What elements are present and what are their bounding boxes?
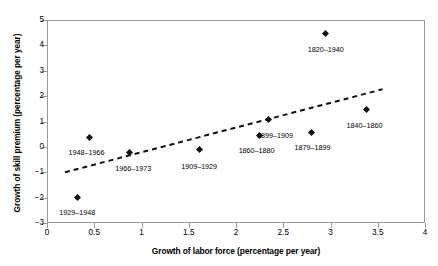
x-tick-label: 3.5 <box>358 229 398 237</box>
y-tick-label: 2 <box>16 92 44 100</box>
x-tick-label: 3 <box>311 229 351 237</box>
scatter-chart: Growth of skill premium (percentage per … <box>0 0 438 266</box>
y-tick-label: 0 <box>16 143 44 151</box>
x-tick-label: 4 <box>405 229 438 237</box>
x-tick-label: 1 <box>122 229 162 237</box>
data-point-label: 1929–1948 <box>32 209 122 216</box>
data-point-label: 1820–1940 <box>281 46 371 53</box>
x-tick-label: 2 <box>216 229 256 237</box>
y-tick-label: −2 <box>16 194 44 202</box>
x-tick-label: 0 <box>27 229 67 237</box>
y-tick-label: 1 <box>16 118 44 126</box>
y-tick-label: −3 <box>16 219 44 227</box>
x-tick-label: 0.5 <box>74 229 114 237</box>
x-axis-title: Growth of labor force (percentage per ye… <box>47 246 425 256</box>
data-point-label: 1840–1860 <box>319 122 409 129</box>
y-tick-label: 4 <box>16 41 44 49</box>
y-tick-label: −1 <box>16 168 44 176</box>
y-tick-label: 3 <box>16 67 44 75</box>
data-point-label: 1899–1909 <box>230 132 320 139</box>
x-tick-label: 2.5 <box>263 229 303 237</box>
data-point-label: 1948–1966 <box>42 149 132 156</box>
data-point-label: 1879–1899 <box>268 144 358 151</box>
data-point-label: 1909–1929 <box>154 163 244 170</box>
x-tick-label: 1.5 <box>169 229 209 237</box>
y-tick-label: 5 <box>16 16 44 24</box>
